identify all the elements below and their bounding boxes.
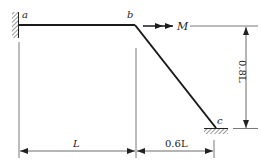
dimension-label-0-6L: 0.6L	[165, 138, 188, 149]
ground-hatch-icon	[204, 129, 228, 134]
moment-load: M	[143, 20, 189, 33]
node-label-a: a	[22, 9, 28, 20]
dimension-label-L: L	[72, 138, 80, 149]
node-label-c: c	[217, 115, 223, 126]
dimension-label-0-8L: 0.8L	[237, 60, 248, 83]
fixed-support-a	[12, 12, 19, 38]
frame-diagram: a b c M 0.8L L 0.6L	[0, 0, 262, 166]
moment-label: M	[176, 20, 189, 33]
wall-hatch-icon	[12, 12, 18, 38]
member-bc	[135, 25, 216, 128]
node-label-b: b	[127, 9, 133, 20]
fixed-support-c	[204, 129, 228, 135]
